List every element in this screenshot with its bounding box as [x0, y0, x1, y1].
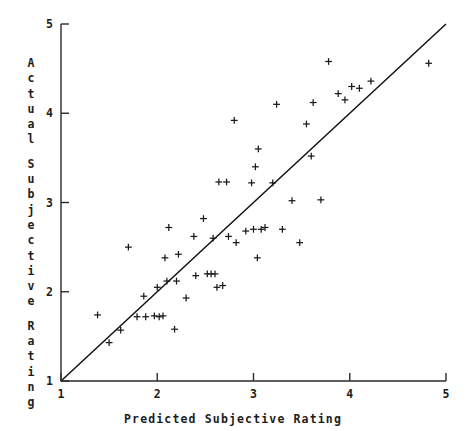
- data-point-marker: [242, 228, 249, 235]
- y-axis-label-char: b: [22, 187, 40, 202]
- data-point-marker: [289, 197, 296, 204]
- y-axis-label: ActualSubjectiveRating: [22, 56, 40, 411]
- y-axis-label-char: j: [22, 203, 40, 218]
- data-point-marker: [156, 313, 163, 320]
- y-axis-label-char: n: [22, 380, 40, 395]
- data-point-marker: [215, 179, 222, 186]
- data-point-marker: [162, 254, 169, 261]
- data-point-marker: [425, 60, 432, 67]
- data-point-marker: [342, 96, 349, 103]
- data-point-marker: [183, 295, 190, 302]
- data-point-marker: [308, 153, 315, 160]
- data-point-marker: [255, 146, 262, 153]
- y-axis-label-char: a: [22, 117, 40, 132]
- data-point-marker: [106, 339, 113, 346]
- data-point-marker: [310, 99, 317, 106]
- identity-line: [61, 24, 446, 381]
- data-point-marker: [254, 254, 261, 261]
- data-point-marker: [163, 278, 170, 285]
- data-point-marker: [192, 272, 199, 279]
- y-axis-label-char: t: [22, 349, 40, 364]
- data-point-marker: [171, 326, 178, 333]
- data-point-marker: [125, 244, 132, 251]
- y-axis-label-char: i: [22, 365, 40, 380]
- y-axis-label-char: R: [22, 319, 40, 334]
- data-point-marker: [223, 179, 230, 186]
- data-point-marker: [248, 179, 255, 186]
- data-point-marker: [142, 313, 149, 320]
- data-point-marker: [94, 312, 101, 319]
- y-axis-label-char: i: [22, 264, 40, 279]
- data-point-marker: [134, 313, 141, 320]
- data-point-marker: [165, 224, 172, 231]
- scatterplot-figure: 1234512345 ActualSubjectiveRating Predic…: [0, 0, 466, 431]
- data-point-marker: [210, 235, 217, 242]
- y-axis-label-char: e: [22, 294, 40, 309]
- y-axis-label-char: c: [22, 233, 40, 248]
- data-point-marker: [252, 163, 259, 170]
- x-tick-label: 4: [346, 387, 353, 401]
- x-tick-label: 2: [154, 387, 161, 401]
- data-point-marker: [279, 226, 286, 233]
- y-tick-label: 2: [46, 285, 53, 299]
- y-tick-label: 1: [46, 374, 53, 388]
- y-axis-label-char: t: [22, 249, 40, 264]
- data-point-marker: [200, 215, 207, 222]
- y-axis-label-char: v: [22, 279, 40, 294]
- x-tick-label: 5: [443, 387, 450, 401]
- data-point-marker: [160, 312, 167, 319]
- data-point-marker: [368, 78, 375, 85]
- data-point-marker: [233, 239, 240, 246]
- data-point-marker: [151, 312, 158, 319]
- data-point-marker: [173, 278, 180, 285]
- data-point-marker: [325, 58, 332, 65]
- data-point-marker: [250, 226, 257, 233]
- y-tick-label: 3: [46, 196, 53, 210]
- y-axis-label-char: A: [22, 56, 40, 71]
- data-point-marker: [335, 90, 342, 97]
- data-point-marker: [225, 233, 232, 240]
- y-axis-label-char: g: [22, 395, 40, 410]
- x-tick-label: 3: [250, 387, 257, 401]
- data-point-marker: [140, 293, 147, 300]
- y-tick-label: 4: [46, 106, 53, 120]
- data-point-marker: [212, 271, 219, 278]
- y-axis-label-char: u: [22, 102, 40, 117]
- identity-reference-line: [61, 24, 446, 381]
- y-tick-label: 5: [46, 17, 53, 31]
- y-axis-label-char: l: [22, 132, 40, 147]
- y-axis-label-char: u: [22, 172, 40, 187]
- data-point-marker: [317, 196, 324, 203]
- x-tick-label: 1: [58, 387, 65, 401]
- y-axis-label-char: c: [22, 71, 40, 86]
- plot-canvas: 1234512345: [0, 0, 466, 431]
- data-point-marker: [296, 239, 303, 246]
- data-point-marker: [303, 121, 310, 128]
- y-axis-label-char: a: [22, 334, 40, 349]
- data-point-marker: [348, 83, 355, 90]
- data-point-marker: [190, 233, 197, 240]
- y-axis-label-char: e: [22, 218, 40, 233]
- axis-tick-labels: 1234512345: [46, 17, 449, 401]
- y-axis-label-gap: [22, 148, 40, 157]
- data-point-marker: [231, 117, 238, 124]
- data-point-marker: [356, 85, 363, 92]
- y-axis-label-char: t: [22, 87, 40, 102]
- y-axis-label-char: S: [22, 157, 40, 172]
- data-point-marker: [273, 101, 280, 108]
- x-axis-label: Predicted Subjective Rating: [0, 412, 466, 426]
- data-point-marker: [175, 251, 182, 258]
- y-axis-label-gap: [22, 310, 40, 319]
- data-point-marker: [269, 179, 276, 186]
